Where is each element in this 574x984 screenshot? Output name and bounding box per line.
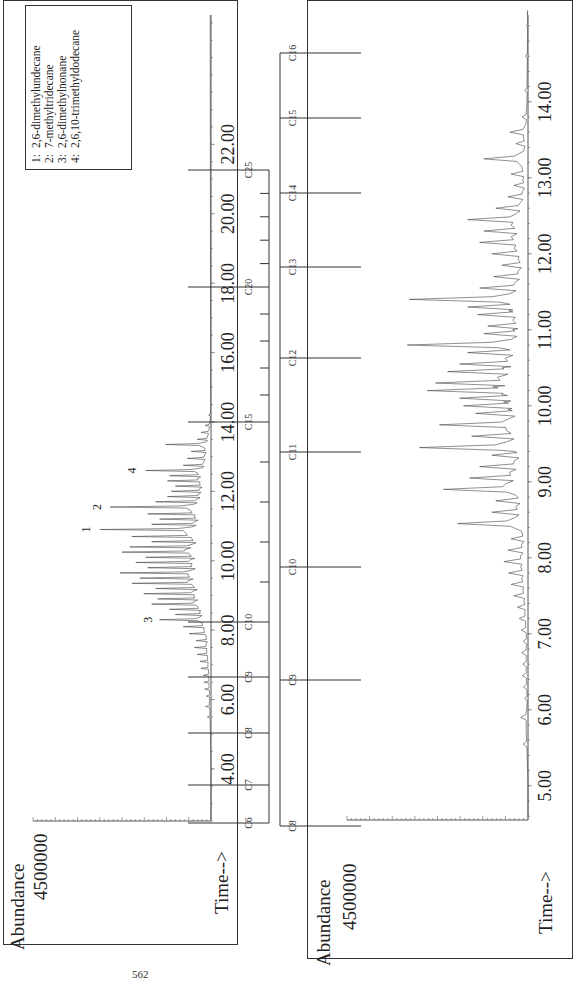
legend: 1:2,6-dimethylundecane2:7-methyltridecan… bbox=[26, 6, 132, 170]
time-tick-label: 8.00 bbox=[535, 542, 555, 574]
time-tick-label: 8.00 bbox=[218, 614, 238, 646]
chart2-ylabel: Abundance bbox=[313, 879, 334, 966]
alkane-label: C8 bbox=[243, 727, 254, 739]
time-tick-label: 7.00 bbox=[535, 618, 555, 650]
peak-label: 3 bbox=[141, 617, 155, 623]
time-tick-label: 9.00 bbox=[535, 466, 555, 498]
alkane-label: C9 bbox=[243, 671, 254, 683]
peak-label: 1 bbox=[79, 527, 93, 533]
peak-label: 2 bbox=[90, 504, 104, 510]
legend-entry-number: 2: bbox=[43, 154, 55, 163]
chromatogram-trace bbox=[407, 11, 528, 817]
legend-entry-name: 2,6-dimethylnonane bbox=[56, 56, 69, 148]
chart2-xlabel: Time--> bbox=[535, 871, 556, 934]
time-tick-label: 10.00 bbox=[535, 386, 555, 427]
alkane-label: C13 bbox=[287, 259, 298, 276]
time-tick-label: 12.00 bbox=[535, 234, 555, 274]
chart1-xlabel: Time--> bbox=[211, 851, 232, 914]
legend-entry-name: 2,6,10-trimethyldodecane bbox=[69, 30, 82, 148]
chart1-ylabel: Abundance bbox=[7, 863, 28, 950]
time-tick-label: 5.00 bbox=[535, 770, 555, 802]
alkane-scale-lower: C8C9C10C11C12C13C14C15C16 bbox=[280, 45, 361, 832]
legend-entry-number: 4: bbox=[69, 154, 81, 163]
time-tick-label: 6.00 bbox=[535, 694, 555, 726]
alkane-label: C8 bbox=[287, 820, 298, 832]
time-tick-label: 4.00 bbox=[218, 753, 238, 785]
chart1-ytick-label: 4500000 bbox=[30, 834, 51, 901]
peak-label: 4 bbox=[125, 468, 139, 474]
legend-entry-number: 1: bbox=[30, 154, 42, 163]
time-tick-label: 12.00 bbox=[218, 471, 238, 512]
legend-entry-name: 7-methyltridecane bbox=[43, 64, 56, 148]
chart2-tick-labels: 5.006.007.008.009.0010.0011.0012.0013.00… bbox=[535, 82, 555, 802]
legend-entry-name: 2,6-dimethylundecane bbox=[30, 45, 43, 148]
time-tick-label: 14.00 bbox=[535, 82, 555, 123]
alkane-label: C15 bbox=[287, 110, 298, 127]
chart1-trace bbox=[100, 15, 211, 819]
alkane-label: C15 bbox=[243, 414, 254, 431]
time-tick-label: 13.00 bbox=[535, 158, 555, 199]
time-tick-label: 6.00 bbox=[218, 684, 238, 716]
alkane-label: C16 bbox=[287, 45, 298, 62]
chart2-axes bbox=[347, 15, 532, 820]
chromatogram-trace bbox=[100, 15, 211, 819]
chart2-ytick-label: 4500000 bbox=[339, 864, 360, 931]
alkane-label: C9 bbox=[287, 674, 298, 686]
alkane-label: C25 bbox=[243, 162, 254, 179]
time-tick-label: 20.00 bbox=[218, 194, 238, 235]
time-tick-label: 10.00 bbox=[218, 541, 238, 582]
chromatogram-figure: Abundance 4500000 Time--> 4.006.008.0010… bbox=[0, 0, 574, 984]
page-number: 562 bbox=[132, 968, 149, 980]
alkane-label: C6 bbox=[243, 817, 254, 829]
chart1-tick-labels: 4.006.008.0010.0012.0014.0016.0018.0020.… bbox=[218, 124, 238, 785]
alkane-label: C14 bbox=[287, 185, 298, 202]
time-tick-label: 11.00 bbox=[535, 310, 555, 350]
legend-entry-number: 3: bbox=[56, 154, 68, 163]
alkane-label: C7 bbox=[243, 779, 254, 791]
alkane-label: C10 bbox=[287, 559, 298, 576]
alkane-label: C12 bbox=[287, 350, 298, 367]
chart2-trace bbox=[407, 11, 528, 817]
time-tick-label: 22.00 bbox=[218, 124, 238, 165]
time-tick-label: 16.00 bbox=[218, 332, 238, 373]
chart1-peak-labels: 1234 bbox=[79, 468, 154, 623]
lower-chart-frame bbox=[308, 1, 573, 959]
time-tick-label: 18.00 bbox=[218, 263, 238, 304]
alkane-label: C20 bbox=[243, 279, 254, 296]
alkane-label: C10 bbox=[243, 614, 254, 631]
alkane-label: C11 bbox=[287, 444, 298, 460]
